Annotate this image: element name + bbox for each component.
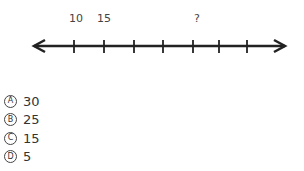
number-line: 10 15 ? — [0, 0, 304, 70]
choice-d[interactable]: D 5 — [4, 148, 40, 167]
number-line-graphic — [0, 0, 304, 70]
choice-a[interactable]: A 30 — [4, 92, 40, 111]
choice-bubble-c[interactable]: C — [4, 132, 17, 145]
tick-label-unknown: ? — [194, 12, 200, 25]
choice-bubble-d[interactable]: D — [4, 150, 17, 163]
tick-label-15: 15 — [97, 12, 111, 25]
choice-value-c: 15 — [23, 131, 40, 146]
choice-bubble-b[interactable]: B — [4, 113, 17, 126]
choice-c[interactable]: C 15 — [4, 129, 40, 148]
choice-value-d: 5 — [23, 149, 31, 164]
choice-bubble-a[interactable]: A — [4, 95, 17, 108]
tick-label-10: 10 — [69, 12, 83, 25]
choice-value-b: 25 — [23, 112, 40, 127]
choice-b[interactable]: B 25 — [4, 111, 40, 130]
choice-value-a: 30 — [23, 94, 40, 109]
answer-choices: A 30 B 25 C 15 D 5 — [4, 92, 40, 166]
